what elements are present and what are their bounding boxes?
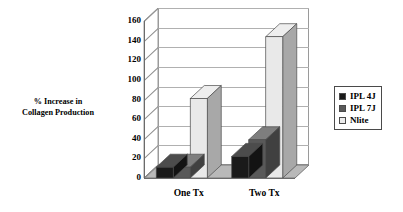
legend-label-nlite: Nlite [350,115,369,125]
chart-legend: IPL 4J IPL 7J Nlite [334,86,382,130]
y-axis-title: % Increase in Collagen Production [8,96,108,118]
legend-label-ipl-7j: IPL 7J [350,103,376,113]
bar-ipl-4j-one-tx [118,8,318,186]
x-tick-label-two-tx: Two Tx [224,188,304,198]
x-tick-label-one-tx: One Tx [149,188,229,198]
legend-item-nlite: Nlite [339,114,376,126]
y-axis-title-line-1: % Increase in [8,96,108,107]
chart-screenshot: % Increase in Collagen Production 020406… [0,0,403,212]
legend-item-ipl-7j: IPL 7J [339,102,376,114]
y-axis-title-line-2: Collagen Production [8,107,108,118]
legend-swatch-nlite [339,117,346,124]
legend-swatch-ipl-4j [339,93,346,100]
floor-front-edge [144,178,295,179]
bar-chart: 020406080100120140160One TxTwo Tx [118,8,318,186]
legend-swatch-ipl-7j [339,105,346,112]
legend-label-ipl-4j: IPL 4J [350,91,376,101]
legend-item-ipl-4j: IPL 4J [339,90,376,102]
